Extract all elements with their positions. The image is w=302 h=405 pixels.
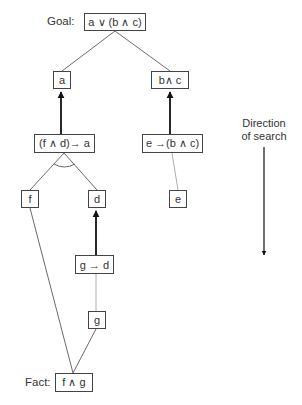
node-goal: a ∨ (b ∧ c) (84, 13, 146, 31)
goal-label: Goal: (47, 15, 75, 27)
node-d: d (88, 190, 106, 208)
edge-goal-a (62, 31, 115, 71)
node-g: g (88, 311, 106, 329)
direction-line1: Direction (234, 117, 294, 130)
edge-g-fact (73, 329, 96, 373)
edge-goal-bc (115, 31, 170, 71)
node-fact: f ∧ g (55, 373, 93, 392)
edge-rule-d (64, 153, 97, 190)
diagram-edges (0, 0, 302, 405)
edge-f-fact (30, 208, 73, 373)
edge-rule-f (30, 153, 64, 190)
node-a: a (53, 71, 71, 89)
node-b-and-c: b∧ c (151, 71, 189, 89)
direction-label: Direction of search (234, 117, 294, 143)
fact-label: Fact: (25, 376, 51, 388)
node-rule-g-implies-d: g → d (75, 255, 114, 274)
node-e: e (169, 190, 187, 208)
node-rule-e-implies-b-and-c: e →(b ∧ c) (142, 134, 203, 153)
node-f: f (21, 190, 39, 208)
direction-line2: of search (234, 130, 294, 143)
node-rule-f-and-d-implies-a: (f ∧ d)→ a (34, 134, 95, 153)
and-arc (54, 164, 75, 167)
edge-rule-e (172, 153, 178, 190)
